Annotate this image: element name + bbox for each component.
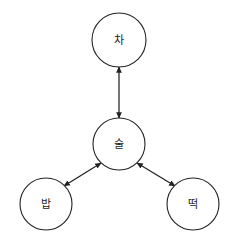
node-label-cha: 차: [114, 34, 124, 47]
edge-sul-bap: [64, 163, 101, 186]
node-sul[interactable]: 술: [93, 118, 145, 170]
node-bap[interactable]: 밥: [20, 178, 72, 230]
node-label-sul: 술: [114, 138, 124, 151]
node-tteok[interactable]: 떡: [167, 178, 219, 230]
node-label-tteok: 떡: [188, 198, 198, 211]
concept-diagram: 차 술 밥 떡: [0, 0, 239, 243]
node-cha[interactable]: 차: [92, 13, 146, 67]
diagram-canvas: 차 술 밥 떡: [0, 0, 239, 243]
node-label-bap: 밥: [41, 198, 51, 211]
edge-sul-tteok: [137, 163, 175, 186]
